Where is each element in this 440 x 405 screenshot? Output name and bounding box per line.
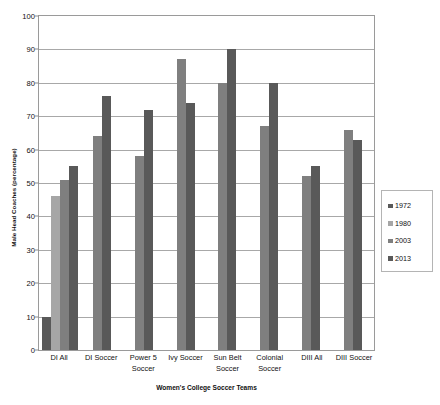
bar [227, 49, 236, 350]
legend-swatch-icon [388, 239, 393, 244]
legend-swatch-icon [388, 204, 393, 209]
bar-group [39, 16, 81, 350]
bar [102, 96, 111, 350]
bar [51, 196, 60, 350]
y-tick-label: 0 [31, 346, 35, 355]
bar [353, 140, 362, 350]
bar [69, 166, 78, 350]
bar-group [123, 16, 165, 350]
bar-group [290, 16, 332, 350]
bar-group [165, 16, 207, 350]
x-tick-label: DIII All [291, 353, 333, 374]
legend-swatch-icon [388, 221, 393, 226]
bar [344, 130, 353, 350]
x-axis-title: Women's College Soccer Teams [38, 384, 375, 391]
y-tick-label: 80 [27, 78, 35, 87]
bar [177, 59, 186, 350]
legend-item-label: 1972 [395, 201, 411, 210]
chart-container: Male Head Coaches (percentage) 010203040… [0, 0, 440, 405]
legend-item[interactable]: 2013 [388, 250, 432, 268]
plot-frame: 0102030405060708090100 [38, 15, 375, 351]
y-axis-title: Male Head Coaches (percentage) [6, 135, 20, 260]
bar [186, 103, 195, 350]
x-tick-label: Sun BeltSoccer [207, 353, 249, 374]
y-tick-label: 90 [27, 45, 35, 54]
bar [93, 136, 102, 350]
plot-area: 0102030405060708090100 [38, 15, 375, 351]
bar [311, 166, 320, 350]
x-tick-label: Power 5Soccer [122, 353, 164, 374]
bar [135, 156, 144, 350]
legend-swatch-icon [388, 256, 393, 261]
x-axis-tick-labels: DI AllDI SoccerPower 5SoccerIvy SoccerSu… [38, 353, 375, 374]
legend-item-label: 2003 [395, 236, 411, 245]
bar [302, 176, 311, 350]
x-tick-label: DI All [38, 353, 80, 374]
bar [42, 317, 51, 350]
legend-item[interactable]: 1980 [388, 215, 432, 233]
x-tick-label: Ivy Soccer [164, 353, 206, 374]
x-tick-label: ColonialSoccer [249, 353, 291, 374]
bar-series-layer [39, 16, 374, 350]
y-tick-label: 60 [27, 145, 35, 154]
bar-group [81, 16, 123, 350]
bar [260, 126, 269, 350]
bar [60, 180, 69, 350]
y-tick-label: 100 [22, 12, 35, 21]
legend-item[interactable]: 1972 [388, 197, 432, 215]
y-tick-label: 50 [27, 179, 35, 188]
legend-item[interactable]: 2003 [388, 232, 432, 250]
bar [218, 83, 227, 350]
y-tick-label: 20 [27, 279, 35, 288]
x-tick-label: DI Soccer [80, 353, 122, 374]
y-tick-label: 40 [27, 212, 35, 221]
y-tick-label: 70 [27, 112, 35, 121]
legend-item-label: 2013 [395, 254, 411, 263]
legend-item-label: 1980 [395, 219, 411, 228]
y-tick-label: 10 [27, 312, 35, 321]
bar-group [332, 16, 374, 350]
x-tick-label: DIII Soccer [333, 353, 375, 374]
bar-group [207, 16, 249, 350]
bar [269, 83, 278, 350]
bar-group [248, 16, 290, 350]
y-tick-label: 30 [27, 245, 35, 254]
bar [144, 110, 153, 350]
legend: 1972198020032013 [381, 190, 433, 272]
y-axis-title-text: Male Head Coaches (percentage) [10, 148, 17, 246]
